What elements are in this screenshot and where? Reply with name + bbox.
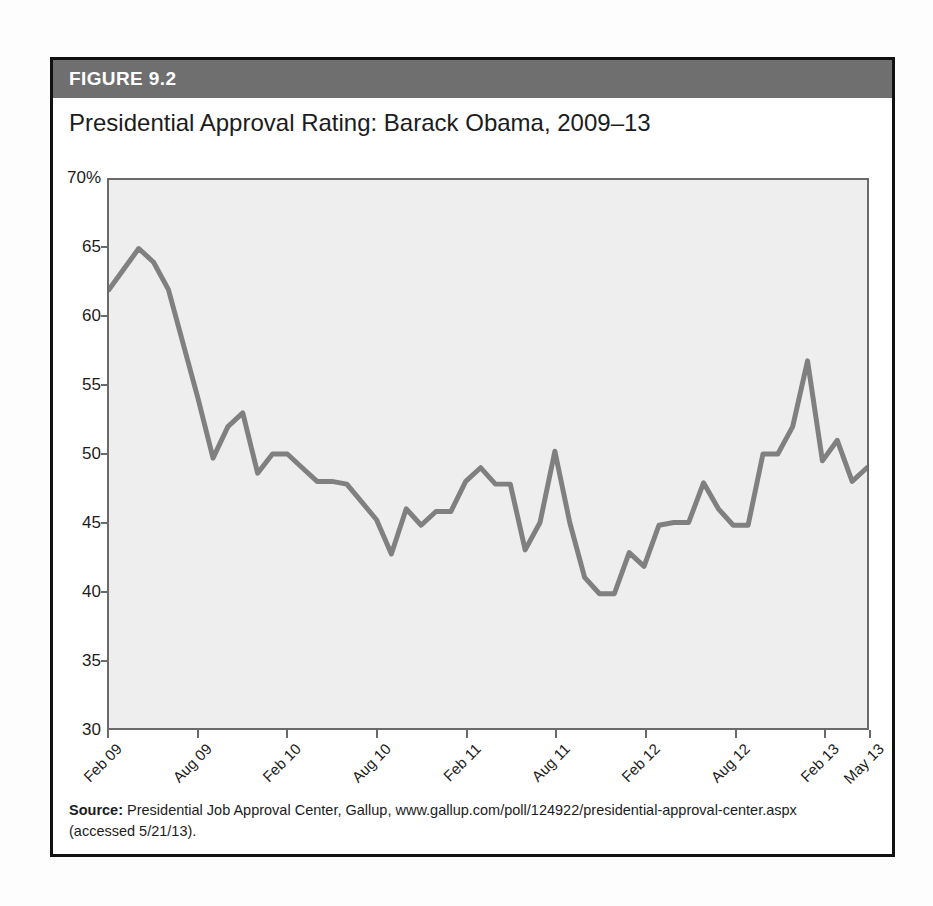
x-axis-tick-label: May 13 [840,740,887,787]
source-access-date: (accessed 5/21/13). [69,821,876,842]
approval-line-series [109,249,867,594]
x-axis-tick-label: Feb 11 [439,740,483,784]
chart-plot-wrapper: 303540455055606570% Feb 09Aug 09Feb 10Au… [53,60,898,790]
x-axis-tickmark [869,730,871,738]
y-axis-tick-label: 45 [82,513,101,533]
x-axis-labels: Feb 09Aug 09Feb 10Aug 10Feb 11Aug 11Feb … [107,732,869,802]
x-axis-tick-label: Aug 11 [528,740,573,785]
page-root: FIGURE 9.2 Presidential Approval Rating:… [0,0,933,906]
y-axis-tick-label: 50 [82,444,101,464]
line-chart-svg [109,180,867,728]
y-axis-labels: 303540455055606570% [53,178,101,730]
source-note: Source: Presidential Job Approval Center… [69,800,876,841]
y-axis-tick-label: 30 [82,720,101,740]
y-axis-tick-label: 65 [82,237,101,257]
source-text: Presidential Job Approval Center, Gallup… [123,802,797,818]
x-axis-tick-label: Feb 09 [80,740,125,785]
x-axis-tick-label: Feb 12 [618,740,663,785]
x-axis-tick-label: Aug 09 [169,740,215,786]
y-axis-tick-label: 60 [82,306,101,326]
x-axis-tick-label: Feb 10 [259,740,304,785]
y-axis-tick-label: 70% [67,168,101,188]
figure-container: FIGURE 9.2 Presidential Approval Rating:… [50,57,895,857]
plot-area [107,178,869,730]
y-axis-tick-label: 35 [82,651,101,671]
source-label: Source: [69,802,123,818]
x-axis-tick-label: Aug 10 [348,740,394,786]
x-axis-tick-label: Feb 13 [797,740,842,785]
y-axis-tick-label: 40 [82,582,101,602]
x-axis-tick-label: Aug 12 [707,740,753,786]
y-axis-tick-label: 55 [82,375,101,395]
